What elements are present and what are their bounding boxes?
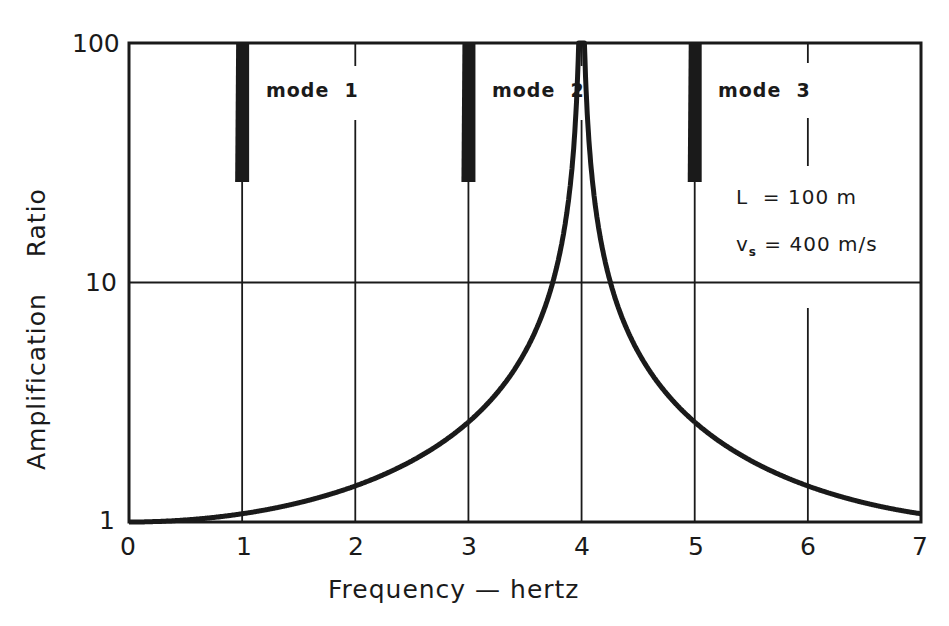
shear-velocity-symbol: v (736, 232, 749, 256)
x-tick-1: 1 (236, 534, 252, 559)
resonance-peak (461, 43, 475, 182)
resonance-peak (688, 43, 702, 182)
mode-3-label: mode 3 (718, 79, 811, 101)
y-axis-label: Amplification Ratio (22, 188, 51, 470)
y-tick-10: 10 (85, 270, 117, 295)
resonance-peak (235, 43, 249, 182)
x-axis-label: Frequency — hertz (328, 575, 579, 604)
x-tick-3: 3 (461, 534, 477, 559)
y-tick-100: 100 (72, 31, 120, 56)
mode-1-label: mode 1 (266, 79, 359, 101)
x-tick-5: 5 (688, 534, 704, 559)
x-tick-4: 4 (574, 534, 590, 559)
mode-2-label: mode 2 (492, 79, 585, 101)
x-tick-0: 0 (120, 534, 136, 559)
x-tick-6: 6 (800, 534, 816, 559)
x-tick-7: 7 (912, 534, 928, 559)
layer-thickness-label: L = 100 m (736, 185, 857, 209)
shear-velocity-value: = 400 m/s (757, 232, 878, 256)
x-tick-2: 2 (348, 534, 364, 559)
shear-velocity-label: vs = 400 m/s (736, 232, 878, 256)
shear-velocity-subscript: s (749, 245, 757, 259)
y-tick-1: 1 (99, 508, 115, 533)
